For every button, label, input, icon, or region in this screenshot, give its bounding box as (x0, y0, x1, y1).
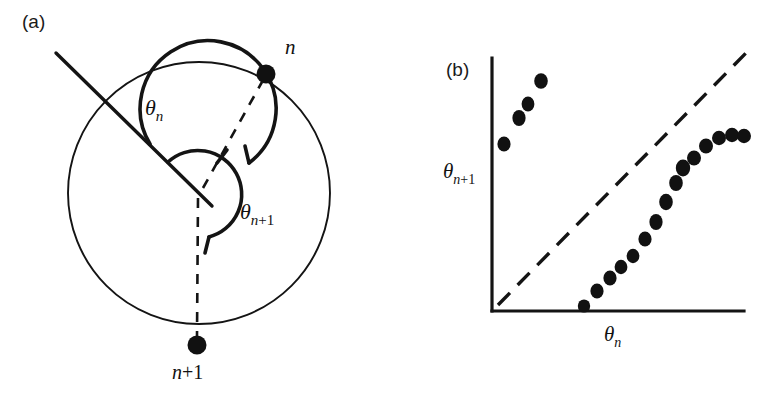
theta-n-arc-tip (245, 146, 249, 163)
y-axis-label: θn+1 (443, 159, 475, 187)
scatter-point (699, 139, 713, 154)
panel-b-label: (b) (446, 59, 469, 80)
scatter-point (615, 260, 628, 274)
scatter-point (687, 150, 701, 165)
panel-a-group: (a) n n+1 θn (22, 11, 330, 383)
scatter-point (578, 299, 590, 312)
point-n-label: n (285, 35, 296, 59)
point-n-plus-1-label: n+1 (172, 361, 203, 383)
scatter-point (590, 284, 603, 299)
scatter-point (603, 271, 616, 286)
theta-n-plus-1-arc (168, 150, 242, 237)
scatter-point (497, 136, 510, 151)
scatter-point (676, 160, 690, 177)
dashed-radius-to-n (203, 82, 262, 188)
scatter-point (522, 97, 535, 112)
theta-n-arc (140, 41, 276, 163)
panel-b-group: (b) (443, 52, 751, 350)
figure-svg: (a) n n+1 θn (0, 0, 772, 393)
scatter-point (649, 214, 662, 230)
scatter-point (534, 73, 548, 89)
theta-n-label: θn (145, 95, 163, 124)
reference-ray-line (56, 53, 212, 206)
panel-a-label: (a) (22, 11, 45, 32)
point-n-plus-1-marker (188, 336, 207, 355)
scatter-points-group (497, 73, 751, 312)
figure-container: (a) n n+1 θn (0, 0, 772, 393)
scatter-point (638, 231, 651, 246)
scatter-point (737, 129, 751, 143)
scatter-point (627, 249, 640, 263)
theta-n-plus-1-arc-tip (205, 237, 209, 253)
scatter-point (712, 131, 726, 145)
dashed-radius-to-n-plus-1 (197, 198, 198, 336)
scatter-point (669, 175, 683, 191)
theta-n-plus-1-label: θn+1 (240, 199, 274, 228)
scatter-point (725, 128, 739, 142)
x-axis-label: θn (604, 322, 621, 350)
scatter-point (512, 110, 525, 126)
scatter-point (659, 194, 673, 210)
point-n-marker (257, 65, 276, 84)
